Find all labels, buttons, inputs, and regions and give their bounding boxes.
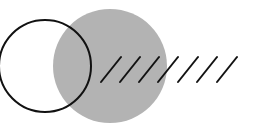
hatch-line — [217, 57, 237, 82]
diagram-canvas — [0, 0, 260, 133]
hatch-line — [178, 57, 198, 82]
gray-filled-circle — [53, 9, 167, 123]
hatch-line — [197, 57, 217, 82]
